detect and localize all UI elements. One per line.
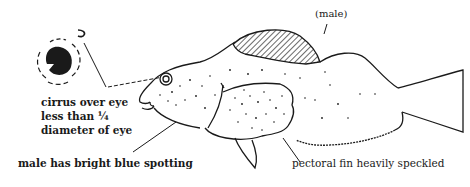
sex-label: (male) xyxy=(315,9,347,19)
speckles xyxy=(159,69,376,131)
fish-body xyxy=(139,30,463,168)
cirrus-icon xyxy=(78,30,85,37)
fish-eye-icon xyxy=(160,73,172,85)
cirrus-annotation: cirrus over eye less than ¼ diameter of … xyxy=(41,95,132,137)
cirrus-line-1: cirrus over eye xyxy=(41,95,132,109)
spotting-annotation: male has bright blue spotting xyxy=(18,158,193,169)
eye-detail-inset xyxy=(38,30,85,84)
cirrus-line-2: less than ¼ xyxy=(41,109,132,123)
pectoral-annotation: pectoral fin heavily speckled xyxy=(292,158,444,169)
cirrus-line-3: diameter of eye xyxy=(41,123,132,137)
pupil-icon xyxy=(46,47,72,75)
